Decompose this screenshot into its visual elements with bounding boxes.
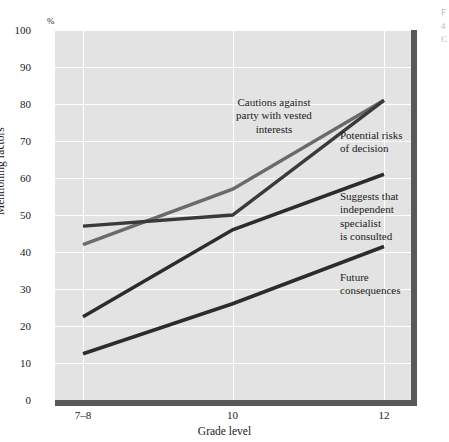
y-axis-tick-label: 90 xyxy=(20,61,31,73)
figure-container: % Mentioning factors 0102030405060708090… xyxy=(0,0,449,442)
y-axis-tick-label: 20 xyxy=(20,320,31,332)
y-axis-tick-label: 40 xyxy=(20,246,31,258)
y-axis-tick-label: 100 xyxy=(15,24,32,36)
y-axis-tick-label: 80 xyxy=(20,98,31,110)
annotation-suggests-specialist: Suggests that independent specialist is … xyxy=(340,190,448,244)
x-axis-tick-label: 7–8 xyxy=(75,409,92,421)
series-line xyxy=(83,174,384,316)
edge-caption-fragment: F 4 C xyxy=(441,6,449,47)
y-axis-tick-label: 10 xyxy=(20,357,31,369)
y-axis-tick-label: 30 xyxy=(20,283,31,295)
y-axis-tick-label: 0 xyxy=(26,394,32,406)
x-axis-rule xyxy=(55,400,417,406)
percent-unit-symbol: % xyxy=(47,16,55,26)
x-axis-tick-label: 12 xyxy=(378,409,389,421)
x-axis-tick-label: 10 xyxy=(227,409,238,421)
series-line xyxy=(83,246,384,353)
y-axis-title: Mentioning factors xyxy=(0,127,6,215)
annotation-future-consequences: Future consequences xyxy=(340,271,448,298)
annotation-potential-risks: Potential risks of decision xyxy=(340,129,448,156)
y-axis-tick-label: 70 xyxy=(20,135,31,147)
x-axis-title: Grade level xyxy=(0,425,449,437)
y-axis-tick-label: 50 xyxy=(20,209,31,221)
y-axis-tick-label: 60 xyxy=(20,172,31,184)
annotation-cautions-against-party: Cautions against party with vested inter… xyxy=(204,96,344,136)
